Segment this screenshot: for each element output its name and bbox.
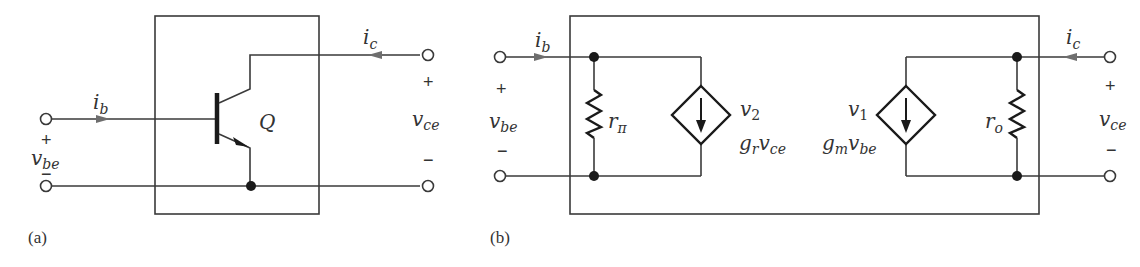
collector-current-arrow-icon <box>368 51 382 59</box>
emitter-junction-dot <box>246 181 256 191</box>
two-port-box-b <box>570 16 1039 214</box>
diagram-a: ib ic Q + vbe − + vce − (a) <box>28 16 439 247</box>
vbe-minus-sign: − <box>497 141 508 161</box>
terminal-output-top <box>1105 52 1116 63</box>
circuit-figure: ib ic Q + vbe − + vce − (a) <box>0 0 1140 267</box>
resistor-ro-icon <box>1010 90 1024 138</box>
junction-dot <box>589 171 599 181</box>
resistor-rpi-icon <box>587 90 601 138</box>
vce-minus-sign: − <box>1106 140 1117 160</box>
source2-name-label: v2 <box>740 97 760 123</box>
terminal-base <box>41 114 52 125</box>
transistor-label: Q <box>259 110 275 134</box>
ro-label: ro <box>985 109 1003 136</box>
emitter-arrow-icon <box>233 137 249 147</box>
figure-label-b: (b) <box>490 228 510 247</box>
figure-label-a: (a) <box>28 228 47 247</box>
vce-plus-sign: + <box>1105 76 1116 96</box>
vbe-label: vbe <box>489 109 518 135</box>
collector-current-arrow-icon <box>1063 53 1077 61</box>
terminal-collector <box>423 50 434 61</box>
terminal-input-bottom <box>495 171 506 182</box>
terminal-output-bottom <box>1105 171 1116 182</box>
terminal-emitter-out <box>423 181 434 192</box>
vbe-minus-sign: − <box>41 164 52 184</box>
vce-minus-sign: − <box>423 150 434 170</box>
collector-current-label: ic <box>363 25 377 52</box>
source2-expression-label: grvce <box>739 131 786 157</box>
base-current-label: ib <box>93 90 108 117</box>
base-current-label: ib <box>535 28 550 55</box>
vbe-plus-sign: + <box>496 79 507 99</box>
rpi-label: rπ <box>608 109 628 136</box>
source1-name-label: v1 <box>848 97 868 123</box>
vce-label: vce <box>412 107 439 133</box>
junction-dot <box>1012 171 1022 181</box>
diagram-b: ib ic + vbe − + vce − rπ ro v2 grvce v1 … <box>489 16 1126 247</box>
source1-expression-label: gmvbe <box>822 131 877 157</box>
vce-plus-sign: + <box>423 72 434 92</box>
collector-current-label: ic <box>1066 25 1080 52</box>
vbe-plus-sign: + <box>41 130 52 150</box>
emitter-wire <box>219 134 250 186</box>
junction-dot <box>1012 52 1022 62</box>
junction-dot <box>589 52 599 62</box>
two-port-box-a <box>155 16 319 214</box>
terminal-input-top <box>495 52 506 63</box>
vce-label: vce <box>1099 107 1126 133</box>
